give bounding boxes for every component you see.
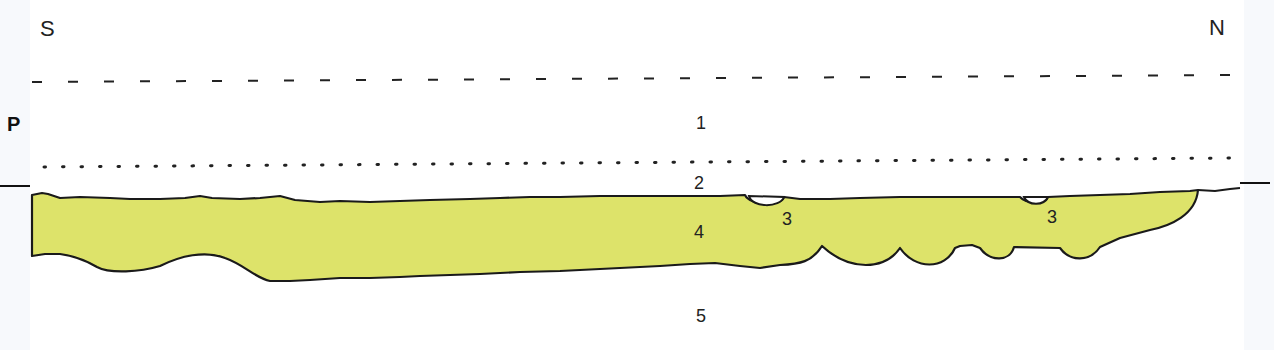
dashed-boundary-line bbox=[32, 75, 1238, 82]
layer-4-fill bbox=[32, 190, 1198, 281]
orientation-north-label: N bbox=[1209, 17, 1225, 39]
section-drawing bbox=[0, 0, 1274, 350]
layer-4-label: 4 bbox=[694, 223, 704, 241]
layer-5-label: 5 bbox=[696, 307, 706, 325]
ground-surface-line-north bbox=[1198, 188, 1240, 191]
dotted-boundary-line bbox=[44, 158, 1238, 167]
layer-3-label-north: 3 bbox=[1047, 208, 1057, 226]
profile-marker-label: P bbox=[7, 114, 20, 134]
layer-2-label: 2 bbox=[694, 174, 704, 192]
layer-3-label-south: 3 bbox=[782, 210, 792, 228]
orientation-south-label: S bbox=[40, 18, 55, 40]
layer-1-label: 1 bbox=[696, 114, 706, 132]
